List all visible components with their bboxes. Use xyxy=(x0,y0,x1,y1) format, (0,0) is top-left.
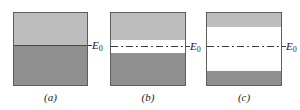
panel-a-level-label-subscript: 0 xyxy=(99,44,103,53)
band-occupancy-figure: E0 (a) E0 (b) E0 (c) xyxy=(0,0,300,110)
panel-b-caption: (b) xyxy=(110,92,186,103)
panel-b-level-label-subscript: 0 xyxy=(197,45,201,54)
panel-a-upper-light-band xyxy=(14,13,87,45)
panel-c-middle-white-gap xyxy=(207,27,281,71)
panel-a-lower-dark-band xyxy=(14,45,87,85)
panel-b-level-label-text: E xyxy=(190,40,197,52)
panel-c-level-label: E0 xyxy=(286,41,297,54)
panel-a-level-label-text: E xyxy=(92,39,99,51)
panel-a-level-label: E0 xyxy=(92,40,103,53)
panel-b-upper-light-band xyxy=(111,13,185,40)
panel-b xyxy=(110,12,186,86)
panel-c xyxy=(206,12,282,86)
panel-c-caption: (c) xyxy=(206,92,282,103)
panel-b-level-label: E0 xyxy=(190,41,201,54)
panel-c-level-label-text: E xyxy=(286,40,293,52)
panel-a-level-line xyxy=(14,45,87,46)
panel-a-caption: (a) xyxy=(13,92,88,103)
panel-b-lower-dark-band xyxy=(111,53,185,85)
panel-c-lower-dark-band xyxy=(207,71,281,85)
panel-c-upper-light-band xyxy=(207,13,281,27)
panel-c-level-label-subscript: 0 xyxy=(293,45,297,54)
panel-c-level-line xyxy=(207,46,281,47)
panel-a xyxy=(13,12,88,86)
panel-b-level-line xyxy=(111,46,185,47)
